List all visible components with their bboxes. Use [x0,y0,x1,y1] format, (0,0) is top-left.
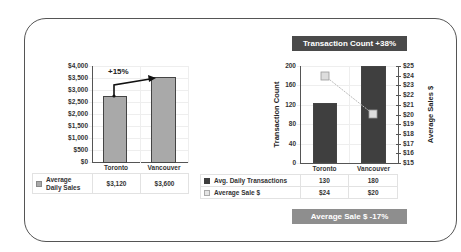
y2-tick-label: $23 [403,81,423,88]
row-label-avg-sale: Average Sale $ [201,187,301,199]
y2-tick-label: $16 [403,149,423,156]
y-tick-label: $3,000 [52,86,88,93]
cell-vancouver-sales: $3,600 [141,174,189,194]
legend-swatch-bar-icon [204,178,210,184]
grid-line [188,66,189,163]
right-y-axis-right [398,66,399,163]
avg-sale-line [300,66,398,163]
x-label-vancouver: Vancouver [349,165,398,172]
y2-tick-label: $22 [403,91,423,98]
growth-arrow-icon [110,74,160,98]
y2-tick-label: $20 [403,111,423,118]
grid-line [89,66,188,67]
y-tick-label: $4,000 [52,62,88,69]
y-tick-label: $2,000 [52,110,88,117]
cell-vancouver-avg-sale: $20 [349,187,398,199]
y-tick-label: $1,500 [52,122,88,129]
x-label-vancouver: Vancouver [140,164,188,171]
y2-tick-label: $19 [403,120,423,127]
y-tick-label: $3,500 [52,74,88,81]
x-label-toronto: Toronto [92,164,140,171]
cell-toronto-avg-sale: $24 [300,187,349,199]
legend-swatch-icon [36,181,42,187]
y-tick-label: $500 [52,146,88,153]
right-x-axis [300,163,398,164]
banner-average-sale: Average Sale $ -17% [292,209,407,224]
y2-tick-label: $18 [403,130,423,137]
y-axis-title-right: Average Sales $ [426,80,435,150]
right-data-table: Avg. Daily Transactions 130 180 Average … [200,174,398,199]
y-axis-title-left: Transaction Count [272,80,281,150]
cell-toronto-transactions: 130 [300,175,349,187]
series-label: AverageDaily Sales [33,174,93,194]
left-y-axis [92,66,93,163]
cell-toronto-sales: $3,120 [93,174,141,194]
y2-tick-label: $21 [403,101,423,108]
y2-tick-label: $24 [403,72,423,79]
left-data-table: AverageDaily Sales $3,120 $3,600 [32,173,189,194]
marker-toronto [321,72,329,80]
y-tick-label: 200 [260,62,296,69]
x-label-toronto: Toronto [300,165,349,172]
growth-annotation: +15% [108,67,129,76]
bar-toronto-sales [103,96,127,163]
y-tick-label: $2,500 [52,98,88,105]
marker-vancouver [369,110,377,118]
cell-vancouver-transactions: 180 [349,175,398,187]
y-tick-label: $1,000 [52,134,88,141]
y2-tick-label: $25 [403,62,423,69]
y2-tick-label: $17 [403,140,423,147]
y2-tick-label: $15 [403,159,423,166]
y-tick-label: 0 [260,159,296,166]
banner-transaction-count: Transaction Count +38% [292,36,407,51]
row-label-transactions: Avg. Daily Transactions [201,175,301,187]
y-tick-label: $0 [52,158,88,165]
legend-swatch-line-icon [204,190,210,196]
